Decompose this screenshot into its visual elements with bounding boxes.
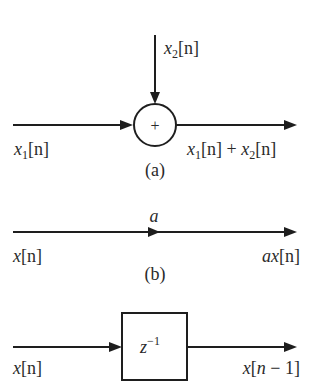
arrowhead-right-icon: [120, 120, 133, 130]
input1-label: x1[n]: [13, 139, 49, 162]
output-label: x1[n] + x2[n]: [186, 139, 276, 162]
output-label: ax[n]: [262, 246, 300, 266]
diagram-a-adder: x2[n] x1[n] + x1[n] + x2[n] (a): [13, 35, 297, 181]
input2-label: x2[n]: [163, 38, 199, 61]
arrowhead-right-icon: [284, 342, 297, 352]
output-label: x[n − 1]: [242, 358, 300, 378]
arrowhead-right-icon: [148, 227, 160, 237]
caption-b: (b): [145, 264, 166, 285]
gain-label: a: [150, 206, 159, 226]
arrowhead-down-icon: [150, 92, 160, 104]
input-label: x[n]: [12, 358, 42, 378]
plus-symbol: +: [150, 117, 159, 134]
input-label: x[n]: [12, 246, 42, 266]
diagram-c-delay: z−1 x[n] x[n − 1]: [12, 313, 300, 380]
arrowhead-right-icon: [109, 342, 122, 352]
diagram-b-gain: a x[n] ax[n] (b): [12, 206, 300, 285]
signal-flow-diagrams: x2[n] x1[n] + x1[n] + x2[n] (a) a x[n] a…: [0, 0, 323, 385]
arrowhead-right-icon: [284, 227, 297, 237]
delay-block-label: z−1: [139, 334, 160, 357]
caption-a: (a): [145, 160, 165, 181]
arrowhead-right-icon: [284, 120, 297, 130]
